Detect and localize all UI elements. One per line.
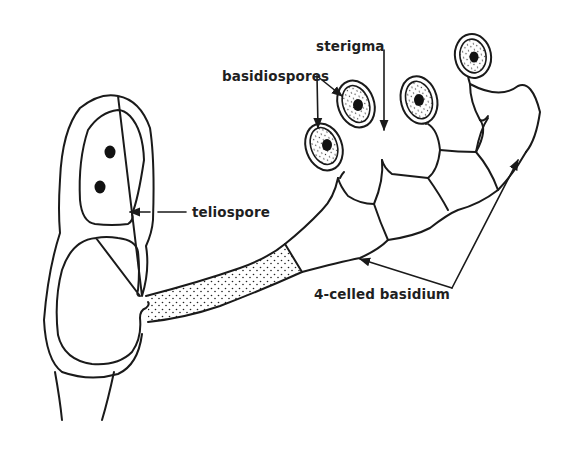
label-teliospore: teliospore <box>192 204 270 220</box>
label-sterigma: sterigma <box>316 38 385 54</box>
basidiospore-4 <box>451 31 494 81</box>
basidium-stalk <box>146 244 302 322</box>
basidiospore-2 <box>331 75 381 132</box>
label-basidium: 4-celled basidium <box>314 286 450 302</box>
basidiospore-1 <box>299 118 349 175</box>
basidiospore-3 <box>395 72 442 128</box>
label-basidiospores: basidiospores <box>222 68 329 84</box>
teliospore <box>44 95 154 420</box>
